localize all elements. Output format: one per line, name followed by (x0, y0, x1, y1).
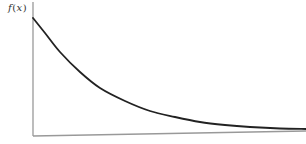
decay-curve (33, 18, 306, 129)
x-axis (33, 131, 306, 136)
chart: f(x) (0, 0, 306, 144)
plot-area (0, 0, 306, 144)
